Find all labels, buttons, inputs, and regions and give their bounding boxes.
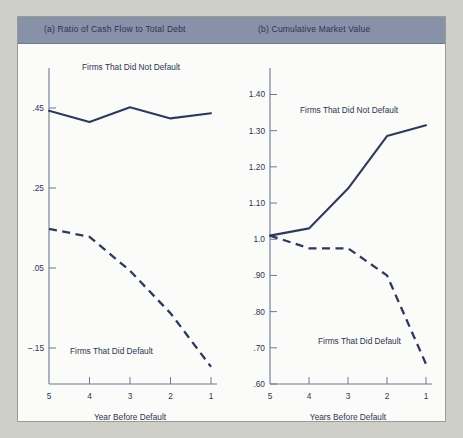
x-tick-label: 3	[128, 391, 133, 401]
panel-a-title: (a) Ratio of Cash Flow to Total Debt	[44, 24, 186, 34]
x-tick-label: 1	[209, 391, 214, 401]
panel-b-chart: 1.401.301.201.101.0.90.80.70.6054321Year…	[249, 68, 432, 422]
series-line-did-not-default	[49, 107, 211, 122]
figure-container: (a) Ratio of Cash Flow to Total Debt (b)…	[17, 16, 446, 422]
series-label-did-not-default: Firms That Did Not Default	[82, 62, 181, 72]
charts-svg: .45.25.05–.1554321Year Before DefaultFir…	[18, 44, 447, 422]
x-tick-label: 3	[346, 391, 351, 401]
x-tick-label: 4	[307, 391, 312, 401]
y-tick-label: .60	[253, 379, 265, 389]
series-label-did-default: Firms That Did Default	[318, 336, 402, 346]
y-tick-label: –.15	[28, 343, 45, 353]
x-tick-label: 5	[268, 391, 273, 401]
x-tick-label: 1	[424, 391, 429, 401]
y-tick-label: 1.40	[249, 89, 266, 99]
y-tick-label: 1.30	[249, 126, 266, 136]
x-tick-label: 2	[168, 391, 173, 401]
x-tick-label: 2	[385, 391, 390, 401]
y-tick-label: .80	[253, 307, 265, 317]
x-tick-label: 4	[87, 391, 92, 401]
y-tick-label: .70	[253, 343, 265, 353]
y-tick-label: .05	[32, 263, 44, 273]
y-tick-label: 1.10	[249, 198, 266, 208]
series-label-did-default: Firms That Did Default	[70, 346, 154, 356]
y-tick-label: .45	[32, 103, 44, 113]
y-tick-label: .25	[32, 183, 44, 193]
panel-b-title: (b) Cumulative Market Value	[258, 24, 370, 34]
panel-a-chart: .45.25.05–.1554321Year Before DefaultFir…	[28, 62, 217, 422]
x-axis-title: Years Before Default	[310, 412, 387, 422]
x-tick-label: 5	[47, 391, 52, 401]
x-axis-title: Year Before Default	[94, 412, 167, 422]
y-tick-label: 1.0	[253, 234, 265, 244]
series-label-did-not-default: Firms That Did Not Default	[300, 105, 399, 115]
y-tick-label: .90	[253, 270, 265, 280]
series-line-did-not-default	[270, 125, 426, 235]
y-tick-label: 1.20	[249, 162, 266, 172]
